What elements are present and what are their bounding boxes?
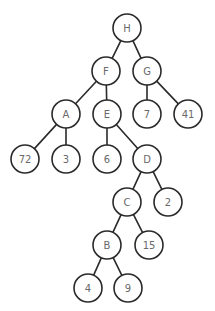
node-label: C — [124, 197, 131, 208]
tree-node-2: 2 — [154, 188, 182, 216]
tree-node-7: 7 — [133, 100, 161, 128]
tree-node-D: D — [133, 145, 161, 173]
edge-D-n2 — [153, 172, 162, 190]
edge-H-F — [112, 41, 121, 59]
tree-node-G: G — [133, 57, 161, 85]
edge-H-G — [133, 41, 141, 59]
tree-node-72: 72 — [11, 145, 39, 173]
tree-node-E: E — [93, 100, 121, 128]
node-label: E — [104, 109, 110, 120]
node-label: 9 — [125, 283, 131, 294]
edge-F-A — [76, 81, 97, 103]
edge-E-D — [116, 124, 137, 148]
tree-node-4: 4 — [74, 274, 102, 302]
node-label: A — [63, 109, 70, 120]
node-label: G — [143, 66, 151, 77]
tree-node-B: B — [93, 231, 121, 259]
node-label: 72 — [19, 154, 32, 165]
node-label: 2 — [165, 197, 171, 208]
tree-node-15: 15 — [135, 231, 163, 259]
tree-node-C: C — [113, 188, 141, 216]
edge-C-B — [113, 215, 121, 233]
node-label: 3 — [63, 154, 69, 165]
tree-diagram: HFGAE7417236DC2B1549 — [0, 0, 215, 311]
tree-node-F: F — [92, 57, 120, 85]
edge-A-n72 — [34, 124, 56, 148]
node-label: B — [104, 240, 111, 251]
edge-G-n41 — [157, 81, 179, 104]
node-label: 7 — [144, 109, 150, 120]
edge-D-C — [133, 172, 141, 190]
edge-C-n15 — [133, 214, 142, 232]
node-label: 6 — [104, 154, 110, 165]
tree-nodes: HFGAE7417236DC2B1549 — [11, 14, 202, 302]
edge-B-n4 — [94, 258, 102, 275]
tree-node-3: 3 — [52, 145, 80, 173]
node-label: H — [123, 23, 131, 34]
node-label: 41 — [182, 109, 195, 120]
node-label: F — [103, 66, 109, 77]
tree-node-A: A — [52, 100, 80, 128]
node-label: D — [143, 154, 151, 165]
tree-node-6: 6 — [93, 145, 121, 173]
tree-node-H: H — [113, 14, 141, 42]
node-label: 15 — [143, 240, 156, 251]
node-label: 4 — [85, 283, 91, 294]
tree-node-9: 9 — [114, 274, 142, 302]
tree-node-41: 41 — [174, 100, 202, 128]
edge-B-n9 — [113, 258, 122, 276]
